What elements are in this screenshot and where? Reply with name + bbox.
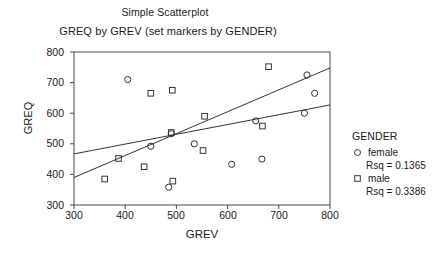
data-point-female [312,90,318,96]
square-marker-icon [352,173,363,184]
data-point-female [229,161,235,167]
data-point-female [301,110,307,116]
circle-marker-icon [352,147,363,158]
scatterplot-figure: Simple Scatterplot GREQ by GREV (set mar… [0,0,446,263]
data-point-male [170,178,176,184]
legend: GENDER female Rsq = 0.1365 male Rsq = 0.… [352,130,444,198]
data-point-female [166,184,172,190]
legend-label-female: female [368,147,398,158]
data-point-female [304,72,310,78]
legend-entry-male[interactable]: male [352,172,444,185]
legend-rsq-female: Rsq = 0.1365 [366,159,444,172]
tick-marks [70,52,330,209]
data-point-female [191,141,197,147]
axis-frame [74,52,330,205]
legend-title: GENDER [352,130,444,142]
legend-label-male: male [368,173,390,184]
legend-entry-female[interactable]: female [352,146,444,159]
regression-lines [74,68,330,178]
data-point-female [259,156,265,162]
data-points-male [102,64,271,184]
legend-rsq-male: Rsq = 0.3386 [366,185,444,198]
data-point-male [170,87,176,93]
data-point-male [102,176,108,182]
data-point-male [202,113,208,119]
data-point-female [125,76,131,82]
data-point-male [266,64,272,70]
data-point-male [200,148,206,154]
regression-line-male [74,68,330,178]
data-point-male [141,164,147,170]
data-points-female [125,72,318,191]
regression-line-female [74,105,330,154]
data-point-male [260,123,266,129]
data-point-male [148,91,154,97]
